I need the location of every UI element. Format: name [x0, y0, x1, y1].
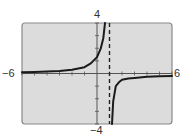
xmin-label: −6: [2, 68, 15, 79]
graph-plot: [0, 0, 180, 136]
ymax-label: 4: [94, 9, 100, 20]
ymin-label: −4: [90, 125, 103, 136]
xmax-label: 6: [174, 68, 180, 79]
